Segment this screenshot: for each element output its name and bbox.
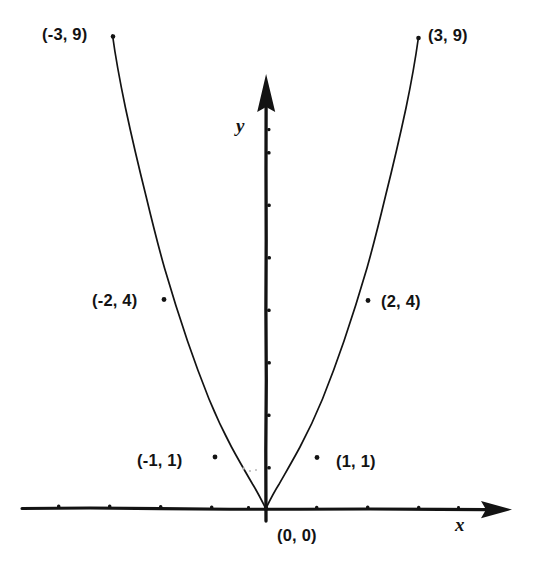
point-neg2-4 (162, 297, 167, 302)
label-neg1-1: (-1, 1) (137, 452, 182, 469)
label-1-1: (1, 1) (336, 453, 376, 470)
label-0-0: (0, 0) (277, 527, 317, 544)
y-axis-arrowhead (257, 74, 275, 112)
point-3-9 (416, 36, 421, 41)
point-0-0 (264, 506, 268, 510)
x-axis-label: x (455, 515, 465, 534)
label-neg2-4: (-2, 4) (92, 292, 137, 309)
parabola-figure: (-3, 9) (3, 9) (-2, 4) (2, 4) (-1, 1) (1… (0, 0, 534, 571)
y-axis-label: y (236, 116, 244, 135)
y-axis (257, 74, 275, 521)
point-neg1-1 (213, 455, 218, 460)
point-1-1 (315, 455, 320, 460)
label-3-9: (3, 9) (428, 27, 468, 44)
label-neg3-9: (-3, 9) (42, 26, 87, 43)
point-neg3-9 (111, 34, 116, 39)
label-2-4: (2, 4) (381, 293, 421, 310)
graph-canvas (0, 0, 534, 571)
point-2-4 (366, 298, 371, 303)
